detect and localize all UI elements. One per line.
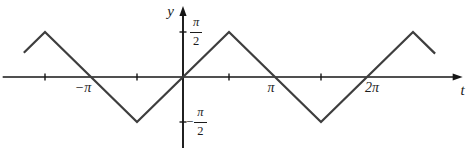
triangle-wave-chart bbox=[0, 0, 476, 151]
y-tick-label-minus-pi-over-2: − π 2 bbox=[186, 105, 207, 139]
fraction-numerator: π bbox=[194, 105, 206, 123]
fraction-minus-pi-over-2: π 2 bbox=[194, 105, 206, 139]
y-axis-label: y bbox=[167, 4, 174, 19]
fraction-pi-over-2: π 2 bbox=[190, 15, 202, 49]
t-axis-arrowhead bbox=[453, 73, 463, 80]
fraction-numerator: π bbox=[190, 15, 202, 33]
x-tick-label-minus-pi: −π bbox=[75, 81, 91, 95]
fraction-denominator: 2 bbox=[197, 123, 203, 140]
minus-sign: − bbox=[186, 114, 193, 130]
x-axis-label: t bbox=[461, 83, 465, 98]
y-tick-label-pi-over-2: π 2 bbox=[189, 15, 202, 49]
plot-canvas: y t −π π 2π π 2 − π 2 bbox=[0, 0, 476, 151]
x-tick-label-2pi: 2π bbox=[365, 81, 379, 95]
fraction-denominator: 2 bbox=[193, 33, 199, 50]
y-axis-arrowhead bbox=[179, 6, 186, 16]
x-tick-label-pi: π bbox=[267, 81, 274, 95]
